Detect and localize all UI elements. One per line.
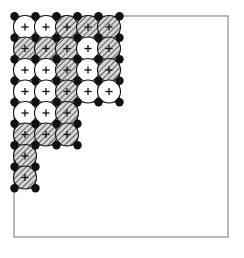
lattice-node-dot <box>52 55 60 63</box>
lattice-node-dot <box>10 98 18 106</box>
lattice-node-dot <box>115 98 123 106</box>
lattice-node-dot <box>73 12 81 20</box>
lattice-node-dot <box>52 141 60 149</box>
lattice-node-dot <box>31 12 39 20</box>
circle-lattice-figure <box>0 0 244 258</box>
lattice-node-dot <box>94 34 102 42</box>
lattice-node-dot <box>10 55 18 63</box>
lattice-node-dot <box>73 141 81 149</box>
lattice-node-dot <box>52 98 60 106</box>
lattice-node-dot <box>73 34 81 42</box>
lattice-node-dot <box>31 34 39 42</box>
lattice-node-dot <box>10 77 18 85</box>
lattice-node-dot <box>31 184 39 192</box>
lattice-node-dot <box>94 98 102 106</box>
figure-root <box>0 0 244 258</box>
lattice-node-dot <box>31 120 39 128</box>
lattice-node-dot <box>10 141 18 149</box>
lattice-node-dot <box>10 163 18 171</box>
lattice-node-dot <box>31 98 39 106</box>
lattice-node-dot <box>115 34 123 42</box>
lattice-node-dot <box>94 55 102 63</box>
lattice-node-dot <box>115 77 123 85</box>
lattice-node-dot <box>73 77 81 85</box>
lattice-node-dot <box>31 55 39 63</box>
lattice-node-dot <box>73 98 81 106</box>
lattice-node-dot <box>52 77 60 85</box>
lattice-node-dot <box>52 12 60 20</box>
lattice-node-dot <box>115 55 123 63</box>
lattice-node-dot <box>73 120 81 128</box>
lattice-node-dot <box>31 141 39 149</box>
lattice-node-dot <box>31 77 39 85</box>
lattice-node-dot <box>52 34 60 42</box>
lattice-node-dot <box>10 34 18 42</box>
lattice-node-dot <box>115 12 123 20</box>
lattice-node-dot <box>52 120 60 128</box>
lattice-node-dot <box>10 184 18 192</box>
lattice-node-dot <box>73 55 81 63</box>
lattice-node-dot <box>10 120 18 128</box>
lattice-node-dot <box>10 12 18 20</box>
lattice-node-dot <box>94 77 102 85</box>
lattice-node-dot <box>94 12 102 20</box>
lattice-node-dot <box>31 163 39 171</box>
